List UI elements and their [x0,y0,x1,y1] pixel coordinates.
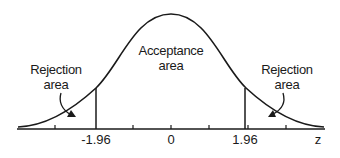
right-rejection-label: Rejection area [257,62,317,92]
left-rejection-label: Rejection area [26,62,86,92]
label-line: Rejection [26,62,86,77]
label-line: area [257,77,317,92]
axis-label-z: z [315,132,322,147]
label-line: area [26,77,86,92]
tick-label-196: 1.96 [232,132,257,147]
tick-label-zero: 0 [167,132,174,147]
tick-label-neg196: -1.96 [81,132,111,147]
label-line: area [135,58,207,73]
acceptance-label: Acceptance area [135,43,207,73]
label-line: Acceptance [135,43,207,58]
label-line: Rejection [257,62,317,77]
